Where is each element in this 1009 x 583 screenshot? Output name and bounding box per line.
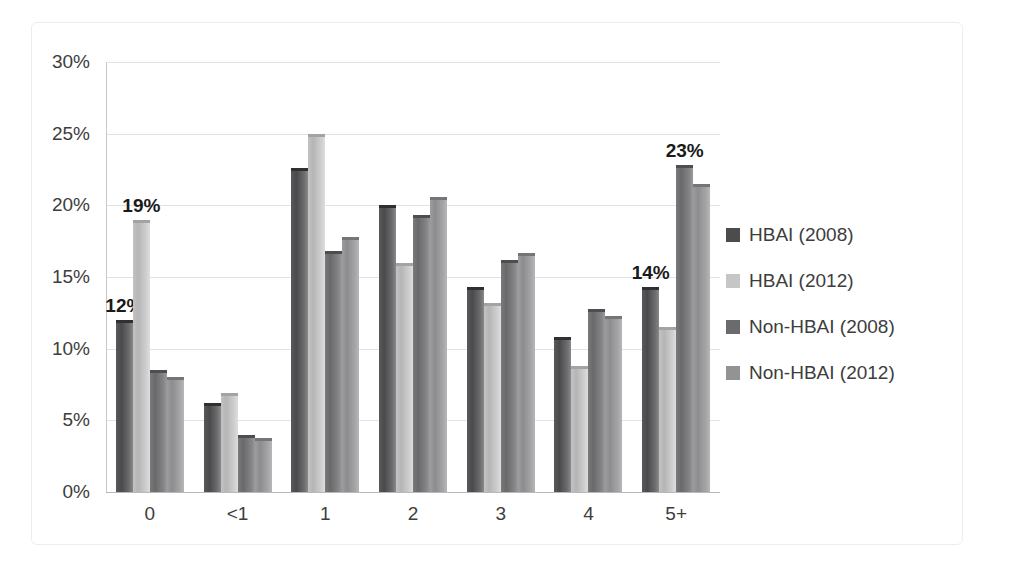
bar-face [291,168,308,492]
bar-slot [693,62,710,492]
bar[interactable] [379,205,396,492]
bar-cap [255,438,272,441]
bar-face [571,366,588,492]
bar[interactable] [430,197,447,492]
bar-face [430,197,447,492]
bar-cap [325,251,342,254]
bar[interactable]: 19% [133,220,150,492]
legend-item[interactable]: HBAI (2012) [726,258,956,304]
bar[interactable] [467,287,484,492]
bar-group [457,62,545,492]
chart-legend: HBAI (2008)HBAI (2012)Non-HBAI (2008)Non… [726,212,956,396]
bar[interactable] [291,168,308,492]
bar-cap [605,316,622,319]
x-axis-tick-label: 1 [281,497,369,537]
bar-group: 14%23% [632,62,720,492]
bar[interactable]: 14% [642,287,659,492]
bar-face [518,253,535,492]
y-axis-tick-label: 5% [63,409,90,431]
bar-cap [396,263,413,266]
bar-slot [308,62,325,492]
bar[interactable] [167,377,184,492]
bar-face [325,251,342,492]
bar[interactable] [325,251,342,492]
bar-cap [116,320,133,323]
bar-slot [413,62,430,492]
bar-cap [518,253,535,256]
y-axis-tick-label: 10% [52,338,90,360]
bar[interactable] [571,366,588,492]
y-axis-tick-label: 0% [63,481,90,503]
bar-slot [467,62,484,492]
bar[interactable] [693,184,710,492]
bar-slot [571,62,588,492]
legend-label: HBAI (2008) [749,224,854,246]
bar[interactable]: 12% [116,320,133,492]
bar[interactable] [588,309,605,492]
bar-group [545,62,633,492]
bar[interactable] [501,260,518,492]
bar[interactable] [150,370,167,492]
bar[interactable] [484,303,501,492]
bar-face [308,134,325,492]
x-axis-tick-label: 4 [545,497,633,537]
bar[interactable]: 23% [676,165,693,492]
bar-groups: 12%19%14%23% [106,62,720,492]
x-axis-tick-label: 3 [457,497,545,537]
bar[interactable] [518,253,535,492]
bar-slot [255,62,272,492]
bar-slot [221,62,238,492]
legend-swatch-icon [726,320,740,334]
bar-cap [150,370,167,373]
bar[interactable] [238,435,255,492]
plot-area: 12%19%14%23% [106,62,720,492]
bar[interactable] [396,263,413,492]
y-axis-tick-label: 15% [52,266,90,288]
bar-slot [167,62,184,492]
bar-cap [238,435,255,438]
bar[interactable] [659,327,676,492]
bar-face [501,260,518,492]
bar-face [484,303,501,492]
x-axis-tick-label: 2 [369,497,457,537]
bar-cap [379,205,396,208]
bar-cap [676,165,693,168]
bar-cap [501,260,518,263]
bar-slot [659,62,676,492]
bar[interactable] [413,215,430,492]
bar[interactable] [554,337,571,492]
bar-face [693,184,710,492]
legend-item[interactable]: HBAI (2008) [726,212,956,258]
bar-face [588,309,605,492]
x-axis-tick-label: 5+ [632,497,720,537]
bar-cap [133,220,150,223]
y-axis-tick-label: 20% [52,194,90,216]
bar-face [342,237,359,492]
y-axis-tick-label: 25% [52,123,90,145]
bar[interactable] [605,316,622,492]
legend-label: HBAI (2012) [749,270,854,292]
bar-face [150,370,167,492]
bar-slot [396,62,413,492]
bar-slot [588,62,605,492]
bar-cap [430,197,447,200]
bar-slot [325,62,342,492]
bar[interactable] [221,393,238,492]
bar-slot [379,62,396,492]
bar[interactable] [342,237,359,492]
y-axis-tick-label: 30% [52,51,90,73]
bar[interactable] [308,134,325,492]
bar-slot [554,62,571,492]
legend-item[interactable]: Non-HBAI (2008) [726,304,956,350]
bar[interactable] [255,438,272,492]
chart-container: 30%25%20%15%10%5%0% 12%19%14%23% 0<11234… [0,0,1009,583]
legend-swatch-icon [726,366,740,380]
legend-item[interactable]: Non-HBAI (2012) [726,350,956,396]
bar-face [659,327,676,492]
bar-slot [204,62,221,492]
bar-face [221,393,238,492]
bar-slot [518,62,535,492]
bar-slot: 19% [133,62,150,492]
bar-cap [554,337,571,340]
bar[interactable] [204,403,221,492]
